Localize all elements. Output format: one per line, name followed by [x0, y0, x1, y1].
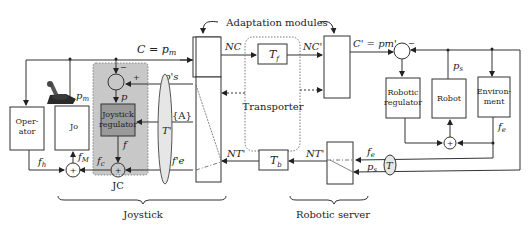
- adaptation-module-left-bottom: [196, 77, 221, 182]
- jc-label: JC: [111, 180, 124, 191]
- joystick-regulator-label-1: Joystick: [101, 110, 134, 119]
- adaptation-arrow-left: [203, 21, 218, 33]
- operator-label-2: ator: [19, 127, 36, 136]
- robot-label: Robot: [437, 94, 462, 103]
- robotic-server-brace-label: Robotic server: [296, 209, 370, 220]
- nc-label: NC: [224, 41, 242, 52]
- sum-jc-plus: +: [115, 166, 122, 175]
- joystick-regulator-label-2: regulator: [99, 120, 137, 129]
- joystick-brace-label: Joystick: [122, 209, 164, 220]
- c-prime-label: C' = pm': [353, 38, 397, 49]
- ps-label-top: ps: [453, 60, 463, 73]
- t-prime-label: T': [162, 125, 171, 136]
- nt-label: NT': [226, 148, 245, 159]
- sum-robot-plus: +: [447, 139, 454, 148]
- joystick-icon: [47, 81, 76, 104]
- operator-label-1: Oper-: [16, 117, 39, 126]
- adaptation-module-right-top: [324, 36, 350, 98]
- robotic-regulator-label-2: regulator: [384, 98, 422, 107]
- fe-prime-label: f'e: [171, 155, 184, 166]
- fe-label-env: fe: [497, 121, 506, 134]
- minus-sign-right: −: [408, 39, 415, 48]
- robotic-regulator-label-1: Robotic: [387, 88, 419, 97]
- teleoperation-diagram: Adaptation modules Oper- ator Jo pm C = …: [0, 0, 531, 236]
- transporter-label: Transporter: [243, 101, 304, 112]
- jo-label: Jo: [69, 122, 78, 131]
- sum-jo-plus: +: [70, 166, 77, 175]
- joystick-brace: [58, 196, 226, 204]
- minus-sign-jc: −: [120, 63, 127, 72]
- A-label: {A}: [172, 110, 192, 121]
- environment-label-1: Environ-: [477, 87, 512, 96]
- nt-prime-label: NT': [305, 148, 324, 159]
- p-label: p: [121, 91, 128, 102]
- environment-label-2: ment: [484, 97, 505, 106]
- fh-label: fh: [37, 156, 46, 169]
- fm-label: fM: [77, 151, 90, 164]
- robotic-server-brace: [290, 196, 368, 204]
- fe-label: fe: [366, 146, 375, 159]
- pm-label: pm: [76, 90, 89, 103]
- adaptation-modules-title: Adaptation modules: [225, 17, 327, 28]
- nc-prime-label: NC': [302, 41, 322, 52]
- plus-sign-jc: +: [133, 73, 140, 82]
- c-equals-pm-label: C = pm: [137, 43, 177, 57]
- adaptation-module-right-bottom: [327, 142, 353, 184]
